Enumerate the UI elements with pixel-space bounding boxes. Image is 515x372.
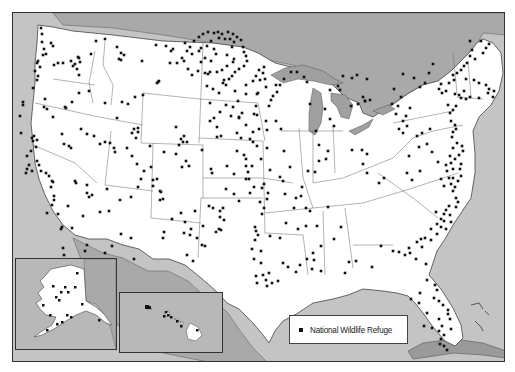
refuge-marker: [453, 79, 456, 82]
refuge-marker: [252, 131, 255, 134]
refuge-marker: [454, 93, 457, 96]
refuge-marker: [119, 199, 122, 202]
refuge-marker: [86, 192, 89, 195]
refuge-marker: [402, 73, 405, 76]
refuge-marker: [340, 226, 343, 229]
refuge-marker: [202, 33, 205, 36]
refuge-marker: [188, 165, 191, 168]
refuge-marker: [351, 77, 354, 80]
refuge-marker: [225, 188, 228, 191]
refuge-marker: [307, 170, 310, 173]
refuge-marker: [141, 60, 144, 63]
refuge-marker: [202, 225, 205, 228]
refuge-marker: [431, 151, 434, 154]
refuge-marker: [238, 68, 241, 71]
refuge-marker: [48, 175, 51, 178]
refuge-marker: [184, 221, 187, 224]
refuge-marker: [416, 241, 419, 244]
refuge-marker: [210, 60, 213, 63]
refuge-marker: [275, 84, 278, 87]
refuge-marker: [457, 180, 460, 183]
refuge-marker: [45, 53, 48, 56]
refuge-marker: [461, 145, 464, 148]
refuge-marker: [31, 170, 34, 173]
refuge-marker: [34, 70, 37, 73]
refuge-marker: [361, 149, 364, 152]
refuge-marker: [402, 132, 405, 135]
refuge-marker: [53, 195, 56, 198]
refuge-marker: [20, 132, 23, 135]
refuge-marker: [469, 96, 472, 99]
refuge-marker: [211, 172, 214, 175]
refuge-marker: [204, 57, 207, 60]
refuge-marker: [450, 162, 453, 165]
refuge-marker: [36, 79, 39, 82]
refuge-marker: [226, 65, 229, 68]
refuge-marker: [383, 177, 386, 180]
refuge-marker: [181, 166, 184, 169]
refuge-marker: [82, 215, 85, 218]
refuge-marker: [194, 210, 197, 213]
refuge-marker: [256, 145, 259, 148]
refuge-marker: [418, 302, 421, 305]
refuge-marker: [392, 250, 395, 253]
refuge-marker: [473, 79, 476, 82]
refuge-marker: [44, 98, 47, 101]
refuge-marker: [259, 201, 262, 204]
refuge-marker: [36, 160, 39, 163]
refuge-marker: [232, 61, 235, 64]
refuge-marker: [223, 79, 226, 82]
refuge-marker: [448, 82, 451, 85]
refuge-marker: [209, 71, 212, 74]
refuge-marker: [37, 75, 40, 78]
refuge-marker: [425, 263, 428, 266]
refuge-marker: [445, 228, 448, 231]
refuge-marker: [217, 31, 220, 34]
refuge-marker: [45, 172, 48, 175]
refuge-marker: [266, 129, 269, 132]
refuge-marker: [57, 213, 60, 216]
refuge-marker: [149, 145, 152, 148]
refuge-marker: [493, 90, 496, 93]
refuge-marker: [162, 237, 165, 240]
refuge-marker: [249, 192, 252, 195]
refuge-marker: [318, 144, 321, 147]
refuge-marker: [454, 158, 457, 161]
refuge-marker: [152, 185, 155, 188]
refuge-marker: [257, 234, 260, 237]
refuge-marker: [221, 69, 224, 72]
refuge-marker: [450, 221, 453, 224]
refuge-marker: [172, 48, 175, 51]
refuge-marker: [120, 59, 123, 62]
refuge-marker: [133, 128, 136, 131]
refuge-marker: [465, 98, 468, 101]
refuge-marker: [450, 120, 453, 123]
refuge-marker: [306, 81, 309, 84]
refuge-marker: [180, 138, 183, 141]
refuge-marker: [261, 187, 264, 190]
refuge-marker: [459, 168, 462, 171]
refuge-marker: [191, 74, 194, 77]
refuge-marker: [175, 153, 178, 156]
refuge-marker: [455, 197, 458, 200]
refuge-marker: [397, 105, 400, 108]
refuge-marker: [140, 178, 143, 181]
refuge-marker: [296, 71, 299, 74]
refuge-marker: [78, 74, 81, 77]
refuge-marker: [80, 128, 83, 131]
refuge-marker: [233, 58, 236, 61]
refuge-marker: [325, 158, 328, 161]
refuge-marker: [114, 151, 117, 154]
refuge-marker: [446, 349, 449, 352]
refuge-marker: [187, 68, 190, 71]
refuge-marker: [88, 90, 91, 93]
refuge-marker: [249, 138, 252, 141]
refuge-marker: [233, 173, 236, 176]
refuge-marker: [355, 260, 358, 263]
refuge-marker: [226, 165, 229, 168]
refuge-marker: [40, 27, 43, 30]
refuge-marker: [183, 232, 186, 235]
refuge-marker: [163, 231, 166, 234]
refuge-marker: [333, 238, 336, 241]
refuge-marker: [142, 94, 145, 97]
